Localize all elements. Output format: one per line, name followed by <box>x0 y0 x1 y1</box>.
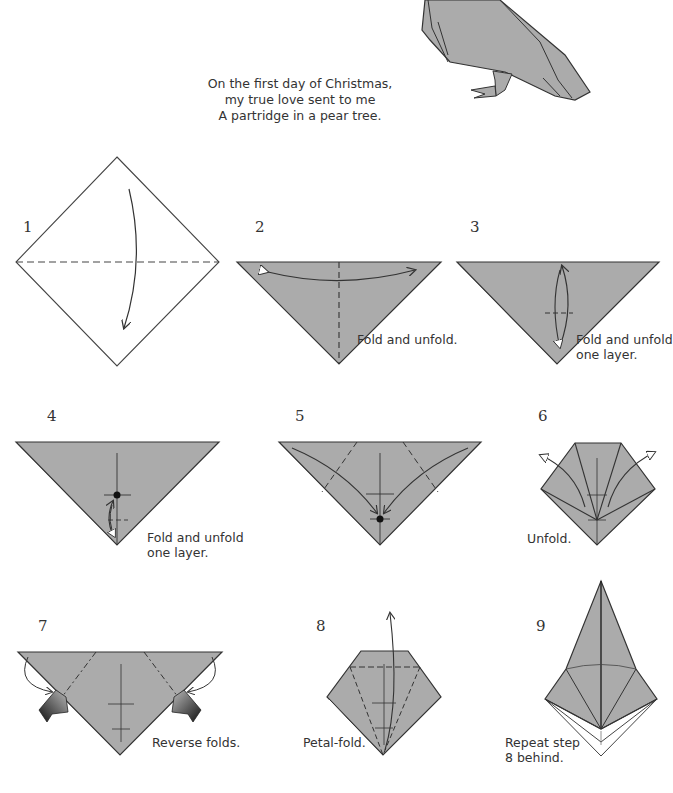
step-number-9: 9 <box>536 617 546 635</box>
caption-line: one layer. <box>576 347 673 362</box>
step-number-7: 7 <box>38 617 48 635</box>
poem-verse: On the first day of Christmas, my true l… <box>200 76 400 124</box>
poem-line: On the first day of Christmas, <box>200 76 400 92</box>
caption-line: Fold and unfold <box>147 530 244 545</box>
step-1-diagram <box>16 157 219 366</box>
poem-line: my true love sent to me <box>200 92 400 108</box>
step-number-8: 8 <box>316 617 326 635</box>
step-7-caption: Reverse folds. <box>152 735 240 750</box>
caption-line: 8 behind. <box>505 750 580 765</box>
step-number-3: 3 <box>470 218 480 236</box>
step-number-1: 1 <box>23 218 33 236</box>
step-2-diagram <box>237 262 441 364</box>
step-number-2: 2 <box>255 218 265 236</box>
step-number-5: 5 <box>295 407 305 425</box>
partridge-model-illustration <box>422 0 590 100</box>
step-2-caption: Fold and unfold. <box>357 332 458 347</box>
step-number-6: 6 <box>538 407 548 425</box>
step-6-caption: Unfold. <box>527 531 572 546</box>
step-5-diagram <box>279 442 481 545</box>
step-number-4: 4 <box>47 407 57 425</box>
step-4-caption: Fold and unfold one layer. <box>147 530 244 560</box>
caption-line: Fold and unfold <box>576 332 673 347</box>
caption-line: Repeat step <box>505 735 580 750</box>
step-9-diagram <box>545 581 657 756</box>
step-8-diagram <box>327 613 441 755</box>
step-6-diagram <box>540 443 655 545</box>
poem-line: A partridge in a pear tree. <box>200 108 400 124</box>
step-3-caption: Fold and unfold one layer. <box>576 332 673 362</box>
caption-line: one layer. <box>147 545 244 560</box>
step-8-caption: Petal-fold. <box>303 735 366 750</box>
step-9-caption: Repeat step 8 behind. <box>505 735 580 765</box>
